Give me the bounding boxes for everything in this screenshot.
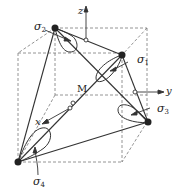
label-sigma3: σ3: [157, 103, 169, 116]
diagram-canvas: [0, 0, 181, 193]
label-axis-x: x: [35, 117, 41, 127]
vertex-sigma2: [52, 25, 59, 32]
vertex-sigma4: [15, 159, 22, 166]
label-sigma4: σ4: [33, 176, 45, 189]
label-sigma2: σ2: [34, 21, 46, 34]
stress-tetrahedron-diagram: σ2 σ1 σ3 σ4 M x y z: [0, 0, 181, 193]
vertex-sigma3: [145, 119, 152, 126]
label-sigma1: σ1: [137, 54, 149, 67]
loop-arrows: [33, 30, 150, 175]
point-m-marker: [71, 101, 75, 105]
label-axis-y: y: [166, 86, 172, 96]
label-axis-z: z: [78, 6, 83, 16]
vertex-sigma1: [119, 52, 126, 59]
label-point-m: M: [77, 84, 87, 94]
